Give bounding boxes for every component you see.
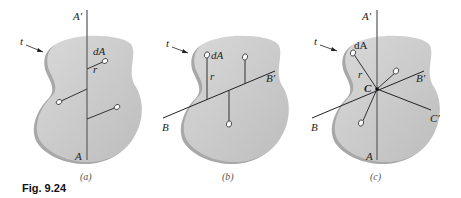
label-r: r — [93, 63, 98, 75]
label-A: A — [74, 150, 82, 162]
label-B-prime: B′ — [266, 72, 276, 84]
label-dA: dA — [93, 45, 106, 57]
caption-a: (a) — [80, 171, 92, 183]
centroid-point — [375, 87, 379, 91]
label-r: r — [210, 70, 215, 82]
label-dA: dA — [354, 39, 368, 51]
label-B: B — [311, 121, 318, 133]
plate-face — [184, 36, 289, 162]
label-A-prime: A′ — [361, 10, 372, 22]
label-C-prime: C′ — [430, 112, 440, 124]
label-B: B — [162, 121, 169, 133]
label-B-prime: B′ — [416, 72, 426, 84]
caption-b: (b) — [222, 171, 234, 183]
figure-canvas: t dA r A′ A (a) t dA r B′ B (b) t dA r C… — [0, 0, 461, 198]
arrowhead-icon — [182, 49, 188, 53]
label-t: t — [314, 35, 318, 47]
label-t: t — [166, 37, 170, 49]
panel-a — [34, 36, 142, 164]
plate-face — [37, 36, 142, 162]
figure-label: Fig. 9.24 — [22, 182, 67, 194]
label-A: A — [365, 150, 373, 162]
panel-c — [332, 36, 440, 164]
label-dA: dA — [211, 49, 224, 61]
label-r: r — [358, 68, 363, 80]
label-t: t — [20, 35, 24, 47]
panel-b — [181, 36, 289, 164]
caption-c: (c) — [370, 171, 382, 183]
arrowhead-icon — [331, 47, 337, 51]
label-A-prime: A′ — [72, 10, 83, 22]
label-C: C — [364, 82, 372, 94]
arrowhead-icon — [37, 48, 43, 52]
